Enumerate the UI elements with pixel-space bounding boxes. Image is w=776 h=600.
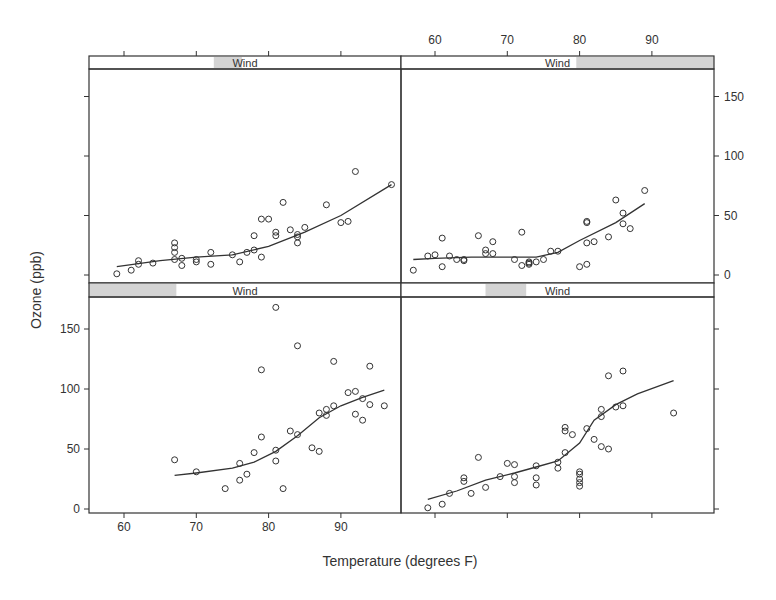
loess-smooth-line	[428, 381, 674, 500]
strip-label: Wind	[232, 285, 257, 297]
data-point	[504, 460, 510, 466]
data-point	[258, 434, 264, 440]
data-point	[150, 260, 156, 266]
data-point	[287, 428, 293, 434]
data-point	[172, 457, 178, 463]
data-point	[302, 224, 308, 230]
data-point	[606, 446, 612, 452]
data-point	[331, 403, 337, 409]
data-point	[360, 417, 366, 423]
data-point	[208, 261, 214, 267]
y-tick-label: 150	[60, 322, 80, 336]
loess-smooth-line	[413, 204, 644, 260]
data-point	[577, 483, 583, 489]
data-point	[280, 486, 286, 492]
data-point	[533, 259, 539, 265]
data-point	[237, 259, 243, 265]
strip-label: Wind	[545, 57, 570, 69]
data-point	[244, 471, 250, 477]
data-point	[512, 480, 518, 486]
data-point	[475, 233, 481, 239]
data-point	[295, 343, 301, 349]
data-point	[287, 227, 293, 233]
x-tick-label: 90	[334, 520, 348, 534]
data-point	[381, 403, 387, 409]
data-point	[251, 233, 257, 239]
data-point	[562, 428, 568, 434]
data-point	[280, 199, 286, 205]
data-point	[439, 264, 445, 270]
data-point	[577, 264, 583, 270]
data-point	[273, 304, 279, 310]
data-point	[483, 247, 489, 253]
data-point	[671, 410, 677, 416]
loess-smooth-line	[175, 390, 385, 475]
data-point	[439, 235, 445, 241]
data-point	[295, 240, 301, 246]
panel-frame	[89, 297, 401, 513]
data-point	[352, 411, 358, 417]
data-point	[316, 410, 322, 416]
data-point	[533, 482, 539, 488]
panel-top-left: Wind	[89, 56, 401, 283]
x-tick-label: 80	[573, 33, 587, 47]
strip-shade-range	[576, 57, 714, 68]
data-point	[258, 216, 264, 222]
data-point	[114, 271, 120, 277]
strip-shade-range	[486, 284, 527, 296]
data-point	[208, 249, 214, 255]
data-point	[627, 226, 633, 232]
data-point	[512, 462, 518, 468]
panel-top-right: Wind	[401, 56, 714, 283]
data-point	[475, 454, 481, 460]
data-point	[410, 267, 416, 273]
x-tick-label: 60	[428, 33, 442, 47]
panel-frame	[401, 297, 714, 513]
data-point	[512, 474, 518, 480]
data-point	[251, 450, 257, 456]
data-point	[519, 229, 525, 235]
data-point	[309, 445, 315, 451]
data-point	[584, 240, 590, 246]
data-point	[613, 197, 619, 203]
loess-smooth-line	[117, 185, 392, 267]
panel-bottom-right: Wind	[401, 283, 714, 513]
data-point	[598, 406, 604, 412]
y-tick-label: 50	[724, 209, 738, 223]
data-point	[367, 402, 373, 408]
x-tick-label: 70	[190, 520, 204, 534]
panel-bottom-left: Wind	[89, 283, 401, 513]
data-point	[266, 216, 272, 222]
data-point	[222, 486, 228, 492]
x-tick-label: 90	[645, 33, 659, 47]
y-tick-label: 0	[73, 502, 80, 516]
data-point	[323, 202, 329, 208]
y-tick-label: 50	[67, 442, 81, 456]
x-tick-label: 70	[501, 33, 515, 47]
y-tick-label: 150	[724, 90, 744, 104]
strip-label: Wind	[232, 57, 257, 69]
data-point	[345, 218, 351, 224]
data-point	[367, 363, 373, 369]
data-point	[432, 252, 438, 258]
data-point	[179, 263, 185, 269]
y-tick-label: 0	[724, 268, 731, 282]
data-point	[128, 267, 134, 273]
y-tick-label: 100	[724, 149, 744, 163]
data-point	[258, 367, 264, 373]
data-point	[519, 263, 525, 269]
data-point	[591, 436, 597, 442]
data-point	[258, 254, 264, 260]
panel-frame	[401, 69, 714, 283]
data-point	[338, 220, 344, 226]
panels-layer: WindWindWindWind	[89, 56, 714, 513]
data-point	[425, 505, 431, 511]
y-axis-label: Ozone (ppb)	[28, 251, 44, 329]
data-point	[555, 465, 561, 471]
strip-shade-range	[89, 284, 176, 296]
data-point	[620, 221, 626, 227]
data-point	[606, 373, 612, 379]
data-point	[598, 444, 604, 450]
data-point	[620, 210, 626, 216]
data-point	[273, 458, 279, 464]
